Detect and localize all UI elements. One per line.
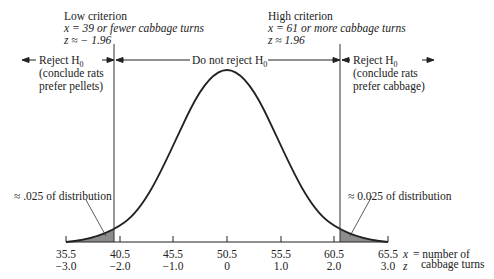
right-reject-desc-2: prefer cabbage) xyxy=(353,80,425,93)
right-tail-label: ≈ 0.025 of distribution xyxy=(348,190,452,202)
svg-text:50.5: 50.5 xyxy=(217,248,237,260)
low-criterion-title: Low criterion xyxy=(64,10,127,22)
normal-distribution-diagram: Low criterion x = 39 or fewer cabbage tu… xyxy=(0,0,494,279)
svg-text:35.5: 35.5 xyxy=(56,248,76,260)
right-tail-leader xyxy=(350,196,372,236)
right-tail-shade xyxy=(340,229,388,242)
svg-text:55.5: 55.5 xyxy=(271,248,291,260)
high-criterion-z: z ≈ 1.96 xyxy=(267,34,305,46)
svg-text:−2.0: −2.0 xyxy=(110,260,131,272)
left-reject-desc-2: prefer pellets) xyxy=(39,80,103,93)
x-variable-label: x xyxy=(402,248,409,260)
do-not-reject-label: Do not reject H0 xyxy=(192,54,267,69)
x-tick-labels: 35.5 40.5 45.5 50.5 55.5 60.5 65.5 xyxy=(56,248,398,260)
left-tail-leader xyxy=(86,200,106,236)
left-tail-shade xyxy=(66,229,114,242)
svg-text:−1.0: −1.0 xyxy=(163,260,184,272)
svg-text:45.5: 45.5 xyxy=(163,248,183,260)
svg-text:65.5: 65.5 xyxy=(378,248,398,260)
svg-text:−3.0: −3.0 xyxy=(56,260,77,272)
z-tick-labels: −3.0 −2.0 −1.0 0 1.0 2.0 3.0 xyxy=(56,260,396,272)
svg-text:1.0: 1.0 xyxy=(274,260,289,272)
right-reject-desc-1: (conclude rats xyxy=(353,67,418,80)
svg-text:2.0: 2.0 xyxy=(327,260,342,272)
svg-text:40.5: 40.5 xyxy=(110,248,130,260)
svg-text:0: 0 xyxy=(224,260,230,272)
left-tail-label: ≈ .025 of distribution xyxy=(14,190,112,202)
left-reject-desc-1: (conclude rats xyxy=(39,67,104,80)
z-variable-label: z xyxy=(402,260,408,272)
svg-text:60.5: 60.5 xyxy=(324,248,344,260)
svg-text:3.0: 3.0 xyxy=(381,260,396,272)
low-criterion-z: z ≈ − 1.96 xyxy=(63,34,112,46)
x-variable-desc-2: cabbage turns xyxy=(421,258,485,271)
